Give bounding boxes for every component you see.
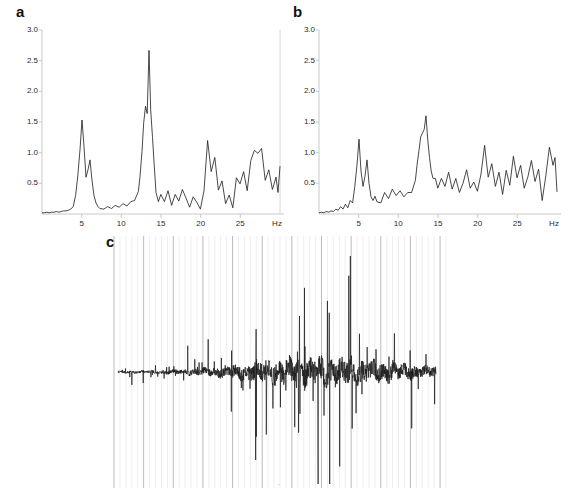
y-tick-2-5: 2.5 (304, 57, 315, 65)
panel-a-spectrum: a (18, 26, 286, 231)
y-tick-2-0: 2.0 (304, 87, 315, 95)
y-tick-0-5: 0.5 (304, 179, 315, 187)
y-tick-1-0: 1.0 (304, 149, 315, 157)
y-tick-3-0: 3.0 (27, 26, 38, 34)
x-tick-20: 20 (473, 220, 482, 228)
panel-b-plot-area (295, 26, 563, 231)
panel-b-y-axis-labels: 3.0 2.5 2.0 1.5 1.0 0.5 (295, 26, 317, 231)
y-tick-1-0: 1.0 (27, 149, 38, 157)
panel-c-trace (118, 256, 436, 484)
x-tick-15: 15 (434, 220, 443, 228)
x-tick-25: 25 (513, 220, 522, 228)
panel-b-letter: b (293, 4, 302, 19)
x-tick-20: 20 (196, 220, 205, 228)
panel-c-plot-area (104, 236, 454, 488)
y-tick-2-5: 2.5 (27, 57, 38, 65)
panel-a-letter: a (16, 4, 24, 19)
panel-b-spectrum: b 3.0 (295, 26, 563, 231)
x-axis-unit: Hz (549, 220, 559, 228)
x-axis-unit: Hz (272, 220, 282, 228)
x-tick-5: 5 (79, 220, 83, 228)
panel-b-trace (319, 116, 557, 213)
x-tick-15: 15 (157, 220, 166, 228)
panel-a-svg (18, 26, 286, 231)
x-tick-10: 10 (394, 220, 403, 228)
x-tick-5: 5 (356, 220, 360, 228)
x-tick-10: 10 (117, 220, 126, 228)
y-tick-1-5: 1.5 (304, 118, 315, 126)
panel-a-y-axis-labels: 3.0 2.5 2.0 1.5 1.0 0.5 (18, 26, 40, 231)
y-tick-1-5: 1.5 (27, 118, 38, 126)
y-tick-2-0: 2.0 (27, 87, 38, 95)
panel-c-waveform: c · (104, 236, 454, 488)
panel-c-bottom-marker: · (278, 481, 280, 488)
x-tick-25: 25 (236, 220, 245, 228)
panel-b-svg (295, 26, 563, 231)
panel-a-plot-area (18, 26, 286, 231)
panel-b-x-axis-labels: 5 10 15 20 25 Hz (295, 220, 563, 232)
panel-a-x-axis-labels: 5 10 15 20 25 Hz (18, 220, 286, 232)
y-tick-3-0: 3.0 (304, 26, 315, 34)
panel-a-trace (42, 50, 280, 212)
panel-a-x-ticks (82, 214, 241, 218)
panel-b-x-ticks (359, 214, 518, 218)
panel-c-svg (104, 236, 454, 488)
y-tick-0-5: 0.5 (27, 179, 38, 187)
